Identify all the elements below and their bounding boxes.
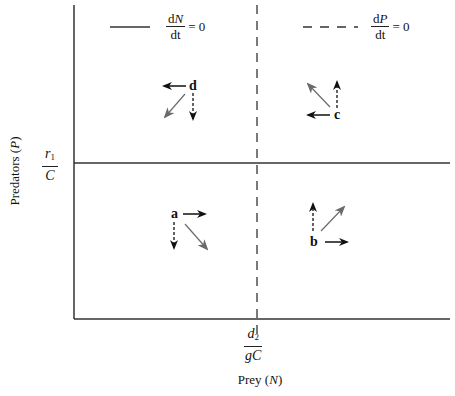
y-axis-label: Predators (P) — [7, 116, 23, 226]
y-threshold-label: r1 C — [42, 146, 58, 183]
region-b-label: b — [310, 234, 318, 250]
region-d-label: d — [189, 78, 197, 94]
x-threshold-label: d2 gC — [242, 326, 264, 363]
legend-prey-nullcline: dN dt = 0 — [166, 12, 205, 41]
region-b-arrows — [313, 204, 347, 242]
region-a-label: a — [171, 206, 178, 222]
region-c-label: c — [334, 107, 340, 123]
legend-predator-nullcline: dP dt = 0 — [371, 12, 410, 41]
region-c-arrows — [308, 82, 337, 115]
phase-plane — [0, 0, 455, 396]
x-axis-label: Prey (N) — [200, 372, 320, 388]
region-a-arrows — [174, 214, 207, 249]
